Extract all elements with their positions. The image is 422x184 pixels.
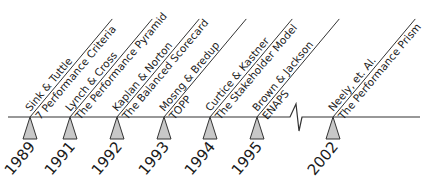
- event-framework: The Performance Prism: [335, 21, 422, 123]
- event-year: 1989: [1, 138, 39, 179]
- event-marker-triangle-icon: [203, 117, 217, 139]
- event-marker-triangle-icon: [110, 117, 124, 139]
- event-year: 1993: [135, 138, 173, 179]
- timeline-diagram: Sink & Tuttle7 Performance Criteria1989L…: [0, 0, 422, 184]
- event-year: 2002: [304, 138, 342, 179]
- event-year: 1995: [228, 138, 266, 179]
- event-marker-triangle-icon: [157, 117, 171, 139]
- event-year: 1994: [181, 138, 219, 179]
- event-marker-triangle-icon: [63, 117, 77, 139]
- event-year: 1992: [88, 138, 126, 179]
- event-labels: Neely, et. Al.The Performance Prism: [325, 12, 422, 122]
- timeline-svg: Sink & Tuttle7 Performance Criteria1989L…: [0, 0, 422, 184]
- event-marker-triangle-icon: [250, 117, 264, 139]
- event-year: 1991: [41, 138, 79, 179]
- event-marker-triangle-icon: [23, 117, 37, 139]
- event-marker-triangle-icon: [326, 117, 340, 139]
